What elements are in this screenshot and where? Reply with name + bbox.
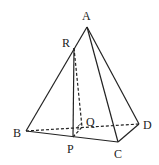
edge-BD [26, 124, 139, 131]
label-B: B [13, 126, 21, 140]
edge-RQ [74, 48, 82, 127]
label-Q: Q [86, 115, 95, 129]
label-P: P [67, 142, 74, 156]
label-C: C [114, 147, 122, 161]
pyramid-figure: A R B P Q D C [0, 0, 159, 165]
edge-AB [26, 27, 87, 131]
edge-RP [73, 48, 74, 137]
edge-BC [26, 131, 118, 142]
label-D: D [143, 118, 152, 132]
edges [26, 27, 139, 142]
pyramid-diagram: A R B P Q D C [0, 0, 159, 165]
edge-PQ [73, 127, 82, 137]
edge-AD [87, 27, 139, 124]
edge-CD [118, 124, 139, 142]
label-A: A [82, 9, 91, 23]
label-R: R [62, 36, 70, 50]
